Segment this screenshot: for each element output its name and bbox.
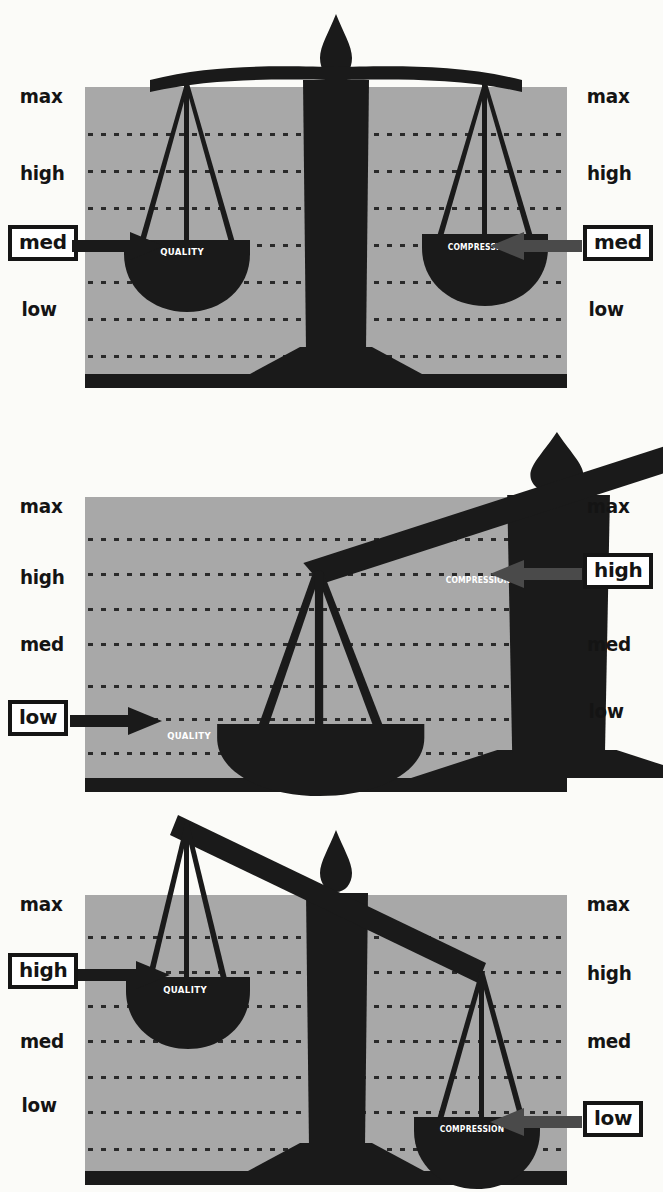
arrow-left-icon bbox=[490, 1106, 586, 1138]
panel-balanced: QUALITY COMPRESSION max high low med max… bbox=[0, 0, 663, 400]
selection-box-right[interactable]: med bbox=[583, 225, 653, 261]
tick-left-max: max bbox=[20, 84, 63, 108]
tick-left-med: med bbox=[20, 632, 64, 656]
tick-left-med: med bbox=[20, 1029, 64, 1053]
tick-right-med: med bbox=[587, 632, 631, 656]
balance-scale-graphic bbox=[0, 400, 663, 800]
arrow-right-icon bbox=[78, 959, 174, 991]
arrow-right-icon bbox=[72, 230, 168, 262]
panel-high-quality: QUALITY COMPRESSION max med low high max… bbox=[0, 793, 663, 1192]
panel-low-quality: QUALITY COMPRESSION max high med low max… bbox=[0, 400, 663, 800]
selection-box-right[interactable]: low bbox=[583, 1101, 643, 1137]
arrow-right-icon bbox=[70, 705, 166, 737]
tick-right-high: high bbox=[587, 961, 632, 985]
tick-right-max: max bbox=[587, 84, 630, 108]
balance-scale-graphic bbox=[0, 0, 663, 400]
tick-right-max: max bbox=[587, 494, 630, 518]
selection-box-left[interactable]: med bbox=[8, 225, 78, 261]
tick-left-high: high bbox=[20, 161, 65, 185]
arrow-left-icon bbox=[490, 558, 586, 590]
tick-right-low: low bbox=[589, 297, 624, 321]
tick-left-max: max bbox=[20, 494, 63, 518]
arrow-left-icon bbox=[490, 230, 586, 262]
selection-box-left[interactable]: low bbox=[8, 700, 68, 736]
tick-right-max: max bbox=[587, 892, 630, 916]
tick-left-low: low bbox=[22, 297, 57, 321]
selection-box-right[interactable]: high bbox=[583, 553, 653, 589]
tick-left-high: high bbox=[20, 565, 65, 589]
tick-left-max: max bbox=[20, 892, 63, 916]
tick-right-med: med bbox=[587, 1029, 631, 1053]
selection-box-left[interactable]: high bbox=[8, 953, 78, 989]
tick-right-low: low bbox=[589, 699, 624, 723]
tick-right-high: high bbox=[587, 161, 632, 185]
tick-left-low: low bbox=[22, 1093, 57, 1117]
